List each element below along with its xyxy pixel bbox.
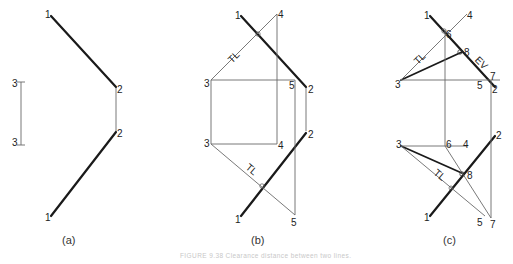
label-3-top: 3 bbox=[395, 79, 401, 90]
clearance-line-3-8-top bbox=[401, 52, 462, 80]
label-3-top: 3 bbox=[204, 78, 210, 89]
label-6-bottom: 6 bbox=[446, 139, 452, 150]
panel-a: 1 2 2 1 3 3 (a) bbox=[12, 9, 123, 246]
tl-label-bottom: TL bbox=[432, 167, 448, 183]
label-1-bottom: 1 bbox=[45, 212, 51, 223]
label-4-bottom: 4 bbox=[278, 140, 284, 151]
label-5-bottom: 5 bbox=[477, 217, 483, 228]
panel-label-c: (c) bbox=[443, 234, 456, 246]
label-7-top: 7 bbox=[490, 71, 496, 82]
line-1-2-front-view bbox=[51, 132, 116, 216]
line-3-5-front-tl bbox=[401, 146, 485, 216]
label-5-top: 5 bbox=[477, 80, 483, 91]
label-2-bottom: 2 bbox=[308, 129, 314, 140]
line-1-2-top-view bbox=[51, 16, 116, 87]
line-3-5-front-tl bbox=[211, 144, 295, 215]
label-1-bottom: 1 bbox=[424, 212, 430, 223]
label-3-top: 3 bbox=[12, 78, 18, 89]
label-1-top: 1 bbox=[235, 10, 241, 21]
panel-c: 1 4 6 8 3 7 5 2 3 6 4 2 8 1 5 7 TL EV TL… bbox=[395, 10, 502, 246]
label-5-top: 5 bbox=[289, 80, 295, 91]
label-4-top: 4 bbox=[278, 9, 284, 20]
label-4-bottom: 4 bbox=[463, 139, 469, 150]
label-3-bottom: 3 bbox=[396, 139, 402, 150]
clearance-line-3-8-front bbox=[401, 146, 464, 174]
label-8-top: 8 bbox=[464, 47, 470, 58]
label-3-bottom: 3 bbox=[204, 138, 210, 149]
label-4-top: 4 bbox=[467, 10, 473, 21]
line-1-2-top-view bbox=[241, 16, 306, 87]
tl-label-bottom: TL bbox=[244, 161, 260, 177]
label-2-top: 2 bbox=[117, 84, 123, 95]
figure-caption: FIGURE 9.38 Clearance distance between t… bbox=[180, 252, 351, 259]
label-3-bottom: 3 bbox=[12, 137, 18, 148]
line-3-4-top-tl bbox=[211, 14, 277, 80]
line-6-7-front bbox=[445, 146, 491, 218]
ev-label: EV bbox=[473, 54, 490, 71]
tl-label-top: TL bbox=[412, 50, 428, 66]
panel-label-a: (a) bbox=[62, 234, 75, 246]
skew-lines-diagram: 1 2 2 1 3 3 (a) 1 4 3 5 2 2 3 4 1 5 TL T… bbox=[0, 0, 513, 264]
label-6-top: 6 bbox=[446, 29, 452, 40]
label-1-top: 1 bbox=[45, 9, 51, 20]
panel-b: 1 4 3 5 2 2 3 4 1 5 TL TL (b) bbox=[204, 9, 314, 246]
label-2-top: 2 bbox=[492, 84, 498, 95]
label-5-bottom: 5 bbox=[291, 217, 297, 228]
label-1-bottom: 1 bbox=[235, 214, 241, 225]
label-8-bottom: 8 bbox=[467, 170, 473, 181]
panel-label-b: (b) bbox=[251, 234, 264, 246]
label-2-top: 2 bbox=[308, 84, 314, 95]
label-1-top: 1 bbox=[424, 10, 430, 21]
label-7-bottom: 7 bbox=[490, 219, 496, 230]
label-2-bottom: 2 bbox=[496, 130, 502, 141]
label-2-bottom: 2 bbox=[117, 128, 123, 139]
